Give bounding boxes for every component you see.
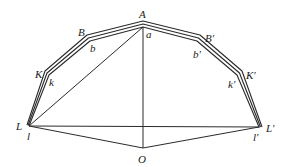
label-k: k	[49, 76, 55, 88]
outer-polygon	[27, 21, 262, 127]
label-Bprime: B′	[205, 32, 215, 44]
label-L: L	[15, 120, 22, 132]
segment-o-lprime	[143, 127, 259, 148]
label-l: l	[27, 130, 30, 142]
arc-polygon-diagram: A a B b K k L l O B′ b′ K′ k′ L′ l′	[0, 0, 284, 167]
segment-l-lprime	[29, 126, 260, 127]
label-bprime: b′	[193, 48, 202, 60]
label-B: B	[78, 26, 85, 38]
label-A: A	[138, 8, 146, 20]
segment-l-o	[29, 126, 143, 148]
label-Kprime: K′	[245, 69, 256, 81]
label-lprime: l′	[253, 131, 259, 143]
label-O: O	[138, 153, 146, 165]
label-kprime: k′	[228, 78, 236, 90]
inner-polygon	[29, 27, 259, 127]
label-K: K	[34, 68, 43, 80]
label-b: b	[90, 42, 96, 54]
label-Lprime: L′	[265, 122, 275, 134]
middle-polygon	[28, 24, 261, 127]
label-a: a	[146, 28, 152, 40]
